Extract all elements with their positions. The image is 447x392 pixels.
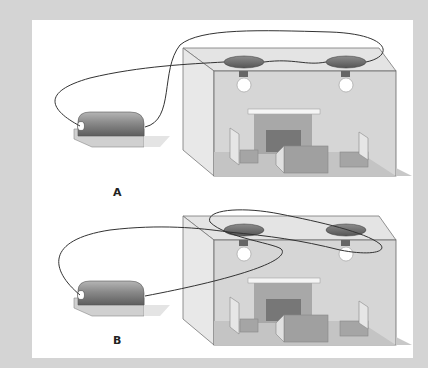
diagram-label-a: A <box>113 186 122 199</box>
bulb-socket-cap <box>224 56 264 68</box>
bulb-socket-cap <box>224 224 264 236</box>
bulb-glass <box>339 247 353 261</box>
circuit-diagrams <box>0 0 447 392</box>
bulb-socket-cap <box>326 56 366 68</box>
diagram-a <box>55 31 412 176</box>
room-shadow <box>396 168 412 176</box>
battery-shadow <box>144 305 170 316</box>
room-left-wall <box>183 48 214 176</box>
battery-cell <box>78 112 144 136</box>
bulb-base <box>239 71 248 77</box>
battery-b <box>74 281 170 316</box>
room-shadow <box>396 337 412 345</box>
sofa <box>284 315 328 342</box>
diagram-b <box>59 210 412 345</box>
bulb-base <box>341 240 350 246</box>
sofa <box>284 146 328 173</box>
chair-seat-left <box>240 150 258 163</box>
diagram-label-b: B <box>113 334 121 347</box>
battery-shadow <box>144 136 170 147</box>
battery-terminal <box>78 291 85 300</box>
bulb-glass <box>339 78 353 92</box>
bulb-glass <box>237 247 251 261</box>
bulb-glass <box>237 78 251 92</box>
chair-seat-left <box>240 319 258 332</box>
battery-terminal <box>78 122 85 131</box>
mantel <box>248 278 320 283</box>
mantel <box>248 109 320 114</box>
bulb-base <box>239 240 248 246</box>
room-a <box>183 48 412 176</box>
battery-a <box>74 112 170 147</box>
bulb-base <box>341 71 350 77</box>
battery-cell <box>78 281 144 305</box>
